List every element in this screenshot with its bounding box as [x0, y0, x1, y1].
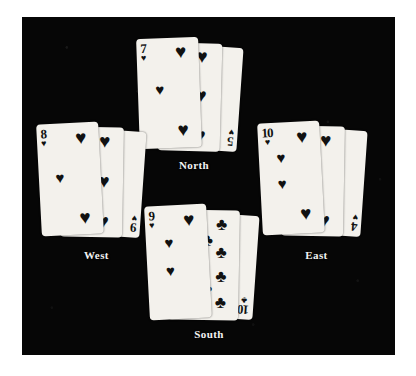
bridge-hands-photo: 5 ♥ 5 ♥ ♥ ♥ ♥ 7 ♥	[22, 17, 395, 355]
card-pip: ♥	[55, 171, 65, 186]
card-pip: ♥	[183, 210, 195, 230]
card-pip: ♥	[175, 42, 187, 61]
card-pip: ♣	[215, 244, 226, 261]
card-pip: ♥	[164, 236, 174, 251]
card-pip: ♥	[99, 132, 111, 151]
card-pip: ♥	[296, 127, 308, 147]
card-pip: ♥	[155, 83, 164, 98]
card-pip: ♥	[320, 131, 332, 150]
suit-symbol-heart: ♥	[141, 53, 147, 61]
card-south-1: 9 ♥ ♥ ♥ ♥	[144, 203, 212, 320]
card-pip: ♣	[216, 216, 227, 233]
card-pip: ♥	[166, 264, 176, 279]
card-index-bottom-right: 10 ♣	[238, 296, 250, 316]
card-index-top-left: 7 ♥	[140, 43, 146, 62]
hand-label-west: West	[34, 249, 159, 261]
card-pip: ♥	[300, 203, 312, 223]
hand-south: 10 ♣ 10 ♣ ♣ ♣ ♣ ♣ ♣ ♣ ♣ ♣ ♣ ♣	[144, 202, 274, 355]
suit-symbol-heart: ♥	[131, 215, 137, 223]
suit-symbol-heart: ♥	[228, 129, 234, 137]
suit-symbol-heart: ♥	[41, 139, 47, 147]
hand-west: 9 ♥ 6 ♥ ♥ ♥ ♥ 8 ♥ ♥	[34, 117, 159, 282]
card-index-top-left: 9 ♥	[148, 210, 154, 229]
card-index-bottom-right: 4 ♥	[351, 214, 358, 233]
card-pip: ♥	[75, 128, 87, 148]
card-face: 8 ♥ ♥ ♥ ♥	[36, 121, 104, 236]
card-pip: ♣	[215, 294, 226, 311]
card-index-bottom-right: 5 ♥	[227, 129, 234, 148]
card-face: 9 ♥ ♥ ♥ ♥	[144, 203, 212, 320]
suit-symbol-heart: ♥	[149, 221, 155, 229]
card-west-1: 8 ♥ ♥ ♥ ♥	[36, 121, 104, 236]
card-pip: ♣	[215, 268, 226, 285]
card-pip: ♥	[177, 120, 189, 139]
card-pip: ♥	[79, 207, 91, 227]
card-index-top-left: 10 ♥	[261, 127, 273, 146]
card-index-bottom-right: 9 ♥	[130, 215, 137, 234]
card-pip: ♥	[277, 177, 287, 192]
hand-label-south: South	[144, 328, 274, 340]
suit-symbol-heart: ♥	[352, 214, 358, 222]
card-pip: ♥	[276, 151, 286, 166]
card-index-top-left: 8 ♥	[40, 128, 46, 147]
